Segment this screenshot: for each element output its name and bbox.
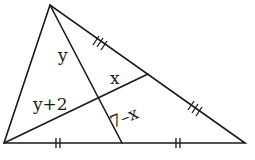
label-y: y <box>57 45 68 65</box>
label-7-minus-x: 7–x <box>107 102 142 132</box>
triangle-diagram: y y+2 x 7–x <box>0 0 255 160</box>
label-x: x <box>110 68 120 88</box>
triple-tick-upper <box>93 36 107 50</box>
label-y-plus-2: y+2 <box>32 94 68 114</box>
